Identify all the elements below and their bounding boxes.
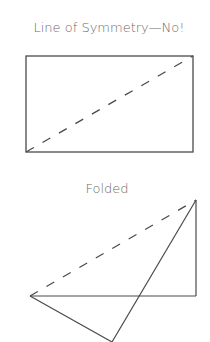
rectangle-diagram <box>26 56 193 152</box>
folded-diagram <box>30 200 196 342</box>
folded-dashed-edge <box>30 200 196 296</box>
folded-flap-left <box>30 296 112 342</box>
folded-flap-right <box>112 200 196 342</box>
dashed-diagonal <box>26 56 193 152</box>
diagrams-canvas <box>0 0 210 342</box>
